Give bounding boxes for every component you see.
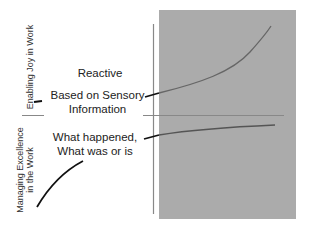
top-description-line2: Information [45, 102, 150, 116]
y-axis-bottom-label: Managing Excellence in the Work [15, 120, 35, 220]
y-axis-top-label: Enabling Joy in Work [25, 22, 35, 112]
y-axis-bottom-label-line2: in the Work [25, 120, 35, 220]
bottom-curve [159, 125, 275, 135]
top-description-line1: Based on Sensory [45, 88, 150, 102]
reactive-title: Reactive [70, 66, 130, 80]
bottom-description-line1: What happened, [45, 130, 145, 144]
bottom-description: What happened, What was or is [45, 130, 145, 158]
top-curve [159, 26, 271, 93]
bottom-curve-lower [37, 161, 83, 207]
bottom-curve-left [144, 135, 159, 139]
top-curve-marker [34, 101, 42, 102]
top-description: Based on Sensory Information [45, 88, 150, 116]
y-axis-bottom-label-line1: Managing Excellence [15, 120, 25, 220]
bottom-description-line2: What was or is [45, 144, 145, 158]
